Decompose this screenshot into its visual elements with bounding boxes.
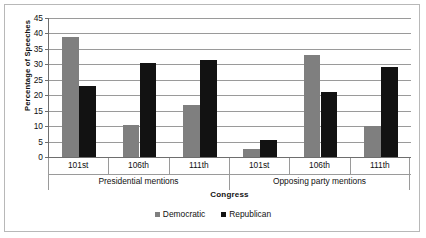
- y-axis-tick-label: 45: [34, 13, 43, 23]
- legend-entry-democratic[interactable]: Democratic: [155, 209, 205, 219]
- bar-republican-5: [381, 67, 398, 157]
- bar-democratic-2: [183, 105, 200, 158]
- category-separator: [350, 158, 351, 174]
- category-label-5: 111th: [350, 160, 410, 170]
- bar-democratic-5: [364, 126, 381, 157]
- bar-republican-1: [140, 63, 157, 157]
- category-label-4: 106th: [289, 160, 349, 170]
- category-label-2: 111th: [169, 160, 229, 170]
- legend-label: Republican: [229, 209, 271, 219]
- y-axis-tick-label: 5: [38, 137, 43, 147]
- group-axis: Presidential mentionsOpposing party ment…: [48, 174, 411, 190]
- category-label-1: 106th: [108, 160, 168, 170]
- category-label-3: 101st: [229, 160, 289, 170]
- group-separator: [229, 158, 230, 190]
- bar-republican-2: [200, 60, 217, 157]
- y-axis-tick-label: 20: [34, 90, 43, 100]
- bar-republican-4: [321, 92, 338, 157]
- category-separator: [289, 158, 290, 174]
- y-axis-tick-label: 30: [34, 59, 43, 69]
- y-axis-tick-label: 35: [34, 44, 43, 54]
- bar-democratic-4: [304, 55, 321, 157]
- chart-container: Percentage of Speeches 45403530252015105…: [4, 4, 420, 232]
- group-label-1: Opposing party mentions: [229, 176, 410, 186]
- y-axis-tick-label: 15: [34, 106, 43, 116]
- bar-democratic-0: [62, 37, 79, 157]
- group-label-0: Presidential mentions: [48, 176, 229, 186]
- legend-swatch-icon: [221, 212, 226, 217]
- bar-democratic-1: [123, 125, 140, 157]
- axis-outer-left: [48, 158, 49, 190]
- category-separator: [108, 158, 109, 174]
- bar-republican-3: [260, 140, 277, 157]
- y-axis-tick-label: 0: [38, 152, 43, 162]
- legend-label: Democratic: [163, 209, 205, 219]
- bar-democratic-3: [243, 149, 260, 157]
- legend-swatch-icon: [155, 212, 160, 217]
- y-axis-tick-label: 25: [34, 75, 43, 85]
- category-label-0: 101st: [48, 160, 108, 170]
- y-axis-tick-label: 40: [34, 28, 43, 38]
- plot-area: 454035302520151050: [48, 18, 411, 158]
- x-axis-title: Congress: [48, 190, 411, 199]
- y-axis-tick-label: 10: [34, 121, 43, 131]
- category-separator: [169, 158, 170, 174]
- bars-layer: [49, 18, 411, 157]
- axis-outer-right: [409, 158, 410, 190]
- chart-legend: DemocraticRepublican: [5, 209, 421, 219]
- legend-entry-republican[interactable]: Republican: [221, 209, 271, 219]
- bar-republican-0: [79, 86, 96, 157]
- y-axis-title: Percentage of Speeches: [23, 0, 32, 136]
